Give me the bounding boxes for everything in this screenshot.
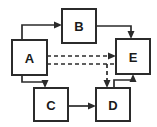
edge-b-to-e-path [96,26,131,33]
edge-a-to-b-arrowhead [54,22,62,29]
edge-a-to-c-path [22,75,45,82]
node-e-label: E [129,50,138,65]
edge-b-to-e-arrowhead [128,31,135,39]
edge-a-to-b-path [22,25,56,40]
block-diagram-canvas: A B C D E [0,0,157,127]
node-c[interactable]: C [34,88,68,121]
edge-b-to-e [96,26,135,39]
edge-a-to-c-arrowhead [42,80,49,88]
node-b[interactable]: B [62,9,96,43]
node-d[interactable]: D [96,88,130,121]
node-a[interactable]: A [12,40,47,75]
edge-a-to-c [22,75,49,88]
edge-a-to-b [22,22,62,41]
node-c-label: C [46,98,56,113]
edge-d-to-e [114,74,137,88]
edge-a-to-e-upper [47,53,116,60]
edge-d-to-e-arrowhead [130,74,137,82]
edge-c-to-d [68,103,96,110]
edge-a-to-e-upper-arrowhead [108,53,116,60]
node-b-label: B [74,19,83,34]
edge-a-to-d-dashed [104,64,111,88]
edge-c-to-d-arrowhead [88,103,96,110]
node-a-label: A [25,51,35,66]
edge-a-to-d-dashed-arrowhead [104,80,111,88]
block-diagram-svg: A B C D E [0,0,157,127]
node-e[interactable]: E [116,39,150,74]
node-d-label: D [108,98,117,113]
